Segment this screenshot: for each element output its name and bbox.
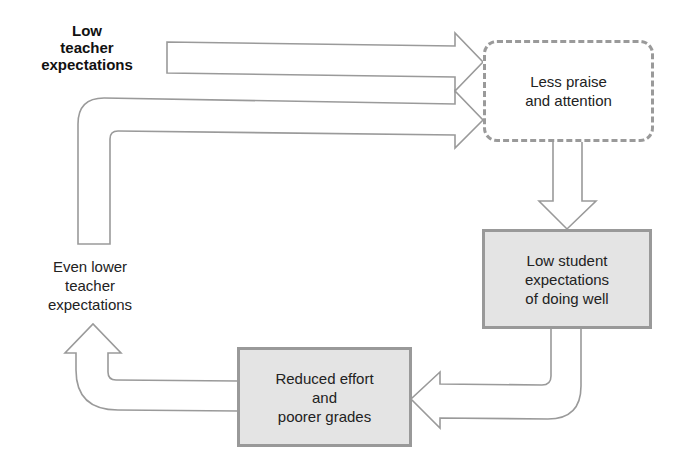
node-even-lower-teacher-expectations: Even lower teacher expectations [15,257,165,314]
node-low-teacher-expectations: Low teacher expectations [12,22,162,73]
node-less-praise-label: Less praise and attention [525,72,612,110]
arrow-student-expectations-to-effort [411,328,581,428]
node-reduced-effort: Reduced effort and poorer grades [237,347,412,447]
node-less-praise-and-attention: Less praise and attention [483,40,654,142]
arrow-even-lower-to-praise [78,91,483,244]
node-reduced-effort-label: Reduced effort and poorer grades [275,369,373,426]
arrow-low-expectations-to-praise [167,33,483,91]
arrow-praise-to-student-expectations [539,140,596,229]
node-low-student-expectations: Low student expectations of doing well [482,229,652,329]
arrow-effort-to-even-lower [65,324,238,411]
node-low-student-expectations-label: Low student expectations of doing well [525,251,609,308]
